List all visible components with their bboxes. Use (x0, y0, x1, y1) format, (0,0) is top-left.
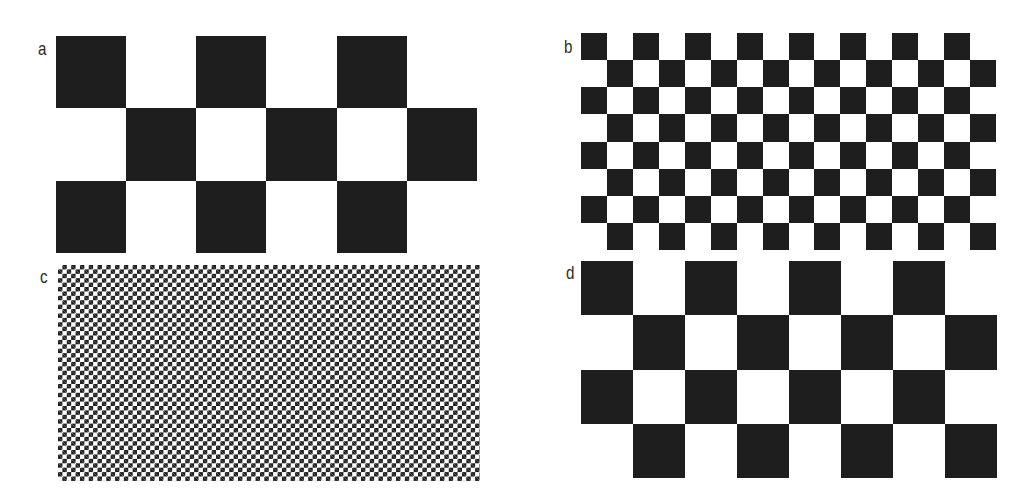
checker-cell (337, 108, 407, 180)
label-d: d (566, 262, 574, 284)
checker-cell (407, 181, 477, 253)
label-c: c (40, 266, 48, 288)
checker-cell (711, 33, 737, 60)
checker-cell (737, 87, 763, 114)
checker-cell (581, 196, 607, 223)
checker-cell (126, 36, 196, 108)
checker-cell (814, 196, 840, 223)
checker-cell (893, 424, 945, 478)
checker-cell (944, 33, 970, 60)
checker-cell (607, 169, 633, 196)
checker-cell (659, 142, 685, 169)
checker-cell (337, 181, 407, 253)
checker-cell (945, 424, 997, 478)
checker-cell (685, 114, 711, 141)
checker-cell (892, 114, 918, 141)
checker-cell (944, 114, 970, 141)
checker-cell (970, 87, 996, 114)
checker-cell (633, 261, 685, 315)
checker-cell (581, 424, 633, 478)
checker-cell (196, 36, 266, 108)
checker-cell (711, 87, 737, 114)
checker-cell (737, 142, 763, 169)
checker-cell (841, 261, 893, 315)
checker-cell (763, 33, 789, 60)
checker-cell (944, 169, 970, 196)
checker-cell (866, 223, 892, 250)
checker-cell (892, 87, 918, 114)
checker-cell (892, 196, 918, 223)
checkerboard-b (581, 33, 996, 250)
checker-cell (970, 169, 996, 196)
checker-cell (711, 196, 737, 223)
checker-cell (970, 196, 996, 223)
checker-cell (581, 87, 607, 114)
checker-cell (685, 87, 711, 114)
checker-cell (866, 87, 892, 114)
checker-cell (840, 223, 866, 250)
checker-cell (893, 261, 945, 315)
checker-cell (659, 87, 685, 114)
checker-cell (711, 169, 737, 196)
checker-cell (685, 223, 711, 250)
checker-cell (970, 33, 996, 60)
checker-cell (918, 33, 944, 60)
checker-cell (581, 315, 633, 369)
checker-cell (893, 315, 945, 369)
checker-cell (840, 33, 866, 60)
checker-cell (337, 36, 407, 108)
checker-cell (659, 60, 685, 87)
checker-cell (607, 196, 633, 223)
checker-cell (711, 60, 737, 87)
checker-cell (866, 114, 892, 141)
checker-cell (581, 60, 607, 87)
checker-cell (659, 33, 685, 60)
checker-cell (944, 223, 970, 250)
checker-cell (633, 142, 659, 169)
checker-cell (56, 108, 126, 180)
checker-cell (633, 33, 659, 60)
checker-cell (918, 60, 944, 87)
checker-cell (970, 223, 996, 250)
checker-cell (685, 60, 711, 87)
checker-cell (841, 315, 893, 369)
checker-cell (581, 223, 607, 250)
checker-cell (581, 33, 607, 60)
checker-cell (633, 223, 659, 250)
checker-cell (814, 87, 840, 114)
checker-cell (814, 60, 840, 87)
checker-cell (841, 370, 893, 424)
checker-cell (918, 169, 944, 196)
checker-cell (737, 315, 789, 369)
checker-cell (607, 114, 633, 141)
checker-cell (918, 223, 944, 250)
checker-cell (789, 87, 815, 114)
checker-cell (840, 114, 866, 141)
checker-cell (866, 169, 892, 196)
checker-cell (659, 169, 685, 196)
checker-cell (737, 169, 763, 196)
checker-cell (789, 142, 815, 169)
checker-cell (866, 60, 892, 87)
checker-cell (944, 60, 970, 87)
checker-cell (633, 315, 685, 369)
checker-cell (685, 196, 711, 223)
checker-cell (711, 114, 737, 141)
checker-cell (763, 60, 789, 87)
checker-cell (607, 142, 633, 169)
checker-cell (892, 33, 918, 60)
checker-cell (607, 223, 633, 250)
checker-cell (918, 196, 944, 223)
checker-cell (607, 33, 633, 60)
checker-cell (659, 114, 685, 141)
checker-cell (763, 223, 789, 250)
checker-cell (685, 142, 711, 169)
checker-cell (763, 196, 789, 223)
checker-cell (633, 370, 685, 424)
checker-cell (407, 108, 477, 180)
checker-cell (407, 36, 477, 108)
checker-cell (789, 114, 815, 141)
checker-cell (56, 181, 126, 253)
checker-cell (763, 142, 789, 169)
checkerboard-c (58, 265, 480, 481)
